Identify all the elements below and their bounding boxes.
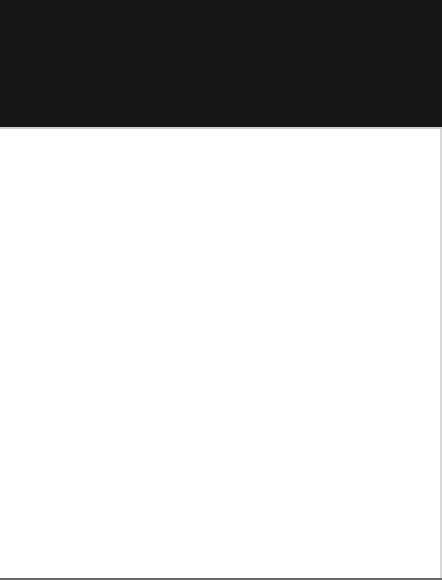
top-dark-bar <box>0 0 442 127</box>
content-area <box>0 129 440 578</box>
faint-heading-strip <box>6 135 434 155</box>
